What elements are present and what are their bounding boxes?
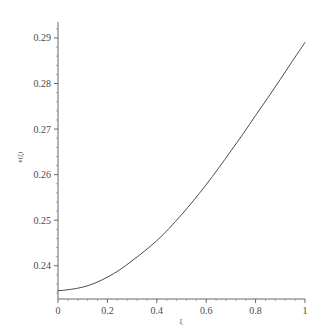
chart-canvas: 0.240.250.260.270.280.29 00.20.40.60.81 … [0, 0, 325, 336]
y-tick-label: 0.26 [34, 169, 52, 180]
y-tick-label: 0.24 [34, 260, 52, 271]
x-tick-label: 0.2 [101, 305, 114, 316]
x-axis-title: ξ [179, 317, 182, 325]
x-tick-label: 0.4 [151, 305, 164, 316]
y-tick-label: 0.27 [34, 124, 52, 135]
x-tick-label: 1 [303, 305, 308, 316]
x-tick-label: 0.8 [249, 305, 262, 316]
y-tick-label: 0.28 [34, 78, 52, 89]
y-tick-label: 0.29 [34, 32, 52, 43]
y-axis-title: e(ξ) [16, 151, 24, 163]
y-tick-label: 0.25 [34, 215, 52, 226]
x-tick-label: 0.6 [200, 305, 213, 316]
x-tick-label: 0 [56, 305, 61, 316]
chart-background [0, 0, 325, 336]
plot-figure: 0.240.250.260.270.280.29 00.20.40.60.81 … [0, 0, 325, 336]
